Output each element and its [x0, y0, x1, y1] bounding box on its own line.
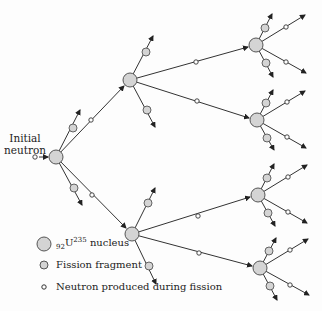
legend-neutron: Neutron produced during fission	[56, 281, 222, 292]
nucleus-text: nucleus	[87, 237, 129, 248]
initial-nucleus	[49, 150, 63, 164]
initial-label-line1: Initial	[4, 132, 46, 144]
legend-fragment-icon	[40, 261, 48, 269]
fission-chain-diagram: Initial neutron 92U235 nucleus Fission f…	[0, 0, 322, 311]
legend-neutron-icon	[42, 285, 46, 289]
initial-label-line2: neutron	[4, 144, 46, 156]
mass-number: 235	[73, 236, 86, 244]
initial-neutron-label: Initial neutron	[4, 132, 46, 156]
diagram-canvas	[0, 0, 322, 311]
legend-nucleus: 92U235 nucleus	[56, 236, 129, 251]
atomic-number: 92	[56, 243, 65, 251]
legend-nucleus-icon	[37, 237, 51, 251]
legend-fragment: Fission fragment	[56, 259, 142, 270]
